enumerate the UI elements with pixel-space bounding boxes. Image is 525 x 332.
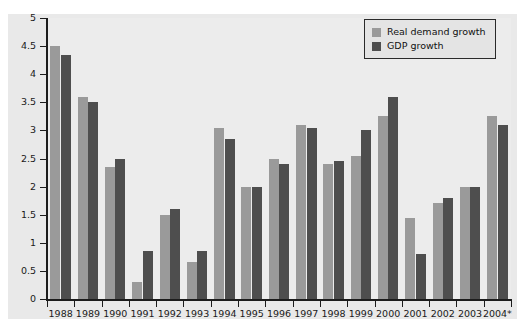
bar	[405, 218, 415, 299]
x-axis-tick	[347, 300, 348, 307]
x-axis-tick-label: 2002	[431, 309, 455, 319]
x-axis-tick	[402, 300, 403, 307]
legend-label-real-demand-growth: Real demand growth	[387, 27, 486, 37]
x-axis-tick-label: 2003	[458, 309, 482, 319]
x-axis-tick-label: 1990	[103, 309, 127, 319]
x-axis-tick	[293, 300, 294, 307]
bar	[433, 203, 443, 299]
bar	[170, 209, 180, 299]
bar	[78, 97, 88, 299]
x-axis-tick	[320, 300, 321, 307]
x-axis-tick-label: 2001	[403, 309, 427, 319]
x-axis-tick	[74, 300, 75, 307]
y-axis-tick-label: 4	[4, 69, 36, 79]
x-axis-tick	[102, 300, 103, 307]
bar	[160, 215, 170, 299]
y-axis-tick-label: 3.5	[4, 97, 36, 107]
x-axis-tick-label: 1997	[294, 309, 318, 319]
y-axis-tick	[40, 18, 47, 19]
x-axis-tick-label: 1999	[349, 309, 373, 319]
bar	[470, 187, 480, 299]
x-axis-tick-label: 2000	[376, 309, 400, 319]
x-axis-tick	[511, 300, 512, 307]
bar	[269, 159, 279, 300]
x-axis-tick-label: 1989	[76, 309, 100, 319]
bar	[296, 125, 306, 299]
bar-chart: 00.511.522.533.544.55 198819891990199119…	[0, 0, 525, 332]
y-axis-tick-label: 4.5	[4, 41, 36, 51]
x-axis-tick	[238, 300, 239, 307]
legend-label-gdp-growth: GDP growth	[387, 41, 443, 51]
x-axis-tick	[183, 300, 184, 307]
x-axis-tick-label: 1988	[49, 309, 73, 319]
bar	[225, 139, 235, 299]
x-axis-line	[46, 299, 512, 301]
x-axis-tick	[129, 300, 130, 307]
legend-swatch-icon-real-demand-growth	[372, 28, 381, 37]
y-axis-tick	[40, 46, 47, 47]
bar	[197, 251, 207, 299]
bar	[115, 159, 125, 300]
x-axis-tick-label: 2004*	[483, 309, 512, 319]
x-axis-tick	[484, 300, 485, 307]
y-axis-tick	[40, 299, 47, 300]
bar	[351, 156, 361, 299]
y-axis-tick	[40, 130, 47, 131]
bar	[214, 128, 224, 299]
chart-legend: Real demand growth GDP growth	[364, 19, 496, 59]
x-axis-tick	[156, 300, 157, 307]
x-axis-tick-label: 1994	[212, 309, 236, 319]
bar	[361, 130, 371, 299]
bar	[323, 164, 333, 299]
x-axis-tick-label: 1998	[321, 309, 345, 319]
bar	[61, 55, 71, 299]
y-axis-tick-label: 0.5	[4, 266, 36, 276]
bar	[279, 164, 289, 299]
x-axis-tick	[429, 300, 430, 307]
x-axis-tick	[375, 300, 376, 307]
x-axis-tick	[265, 300, 266, 307]
y-axis-tick	[40, 243, 47, 244]
x-axis-tick-label: 1995	[240, 309, 264, 319]
y-axis-tick-label: 0	[4, 294, 36, 304]
bar	[460, 187, 470, 299]
y-axis-tick	[40, 159, 47, 160]
y-axis-tick	[40, 271, 47, 272]
x-axis-tick-label: 1991	[130, 309, 154, 319]
x-axis-tick	[456, 300, 457, 307]
x-axis-tick	[211, 300, 212, 307]
y-axis-tick	[40, 102, 47, 103]
legend-item-real-demand-growth: Real demand growth	[372, 25, 486, 39]
legend-item-gdp-growth: GDP growth	[372, 39, 486, 53]
y-axis-tick	[40, 74, 47, 75]
bar	[50, 46, 60, 299]
y-axis-tick-label: 2	[4, 182, 36, 192]
legend-swatch-icon-gdp-growth	[372, 42, 381, 51]
bar	[132, 282, 142, 299]
x-axis-tick-label: 1996	[267, 309, 291, 319]
bars-layer	[47, 18, 511, 299]
bar	[498, 125, 508, 299]
y-axis-tick-label: 5	[4, 13, 36, 23]
bar	[334, 161, 344, 299]
bar	[416, 254, 426, 299]
x-axis-tick-label: 1992	[158, 309, 182, 319]
bar	[241, 187, 251, 299]
y-axis-tick-label: 3	[4, 125, 36, 135]
bar	[187, 262, 197, 299]
bar	[307, 128, 317, 299]
bar	[252, 187, 262, 299]
y-axis-tick	[40, 187, 47, 188]
y-axis-tick-label: 2.5	[4, 154, 36, 164]
bar	[88, 102, 98, 299]
y-axis-tick-label: 1.5	[4, 210, 36, 220]
x-axis-tick-label: 1993	[185, 309, 209, 319]
y-axis-tick	[40, 215, 47, 216]
y-axis-tick-label: 1	[4, 238, 36, 248]
bar	[443, 198, 453, 299]
bar	[487, 116, 497, 299]
bar	[105, 167, 115, 299]
bar	[378, 116, 388, 299]
x-axis-tick	[47, 300, 48, 307]
bar	[143, 251, 153, 299]
